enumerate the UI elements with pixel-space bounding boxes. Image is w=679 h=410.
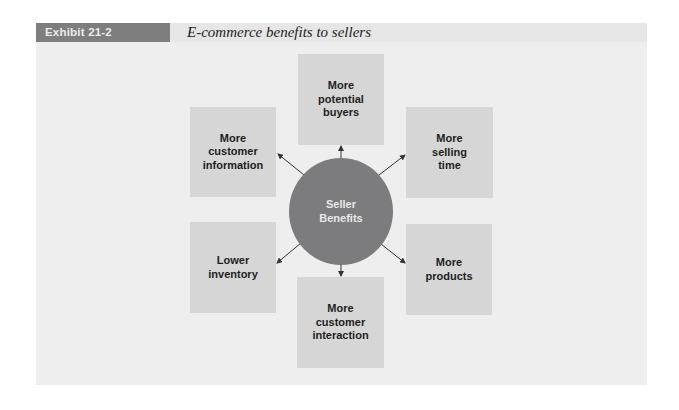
- benefit-box-customer-information: More customer information: [190, 107, 276, 197]
- benefit-box-customer-interaction: More customer interaction: [297, 277, 384, 368]
- benefit-box-lower-inventory: Lower inventory: [190, 222, 276, 313]
- benefit-box-selling-time: More selling time: [406, 107, 493, 198]
- benefit-label: More potential buyers: [318, 79, 364, 120]
- benefit-box-potential-buyers: More potential buyers: [298, 54, 384, 145]
- benefit-box-more-products: More products: [406, 224, 492, 315]
- seller-benefits-hub: Seller Benefits: [289, 158, 393, 265]
- benefit-label: More products: [425, 256, 472, 283]
- benefit-label: More selling time: [432, 132, 467, 173]
- benefit-label: More customer interaction: [312, 302, 368, 343]
- benefit-label: Lower inventory: [208, 254, 258, 281]
- benefit-label: More customer information: [203, 132, 264, 173]
- exhibit-title: E-commerce benefits to sellers: [187, 23, 371, 42]
- exhibit-label: Exhibit 21-2: [36, 23, 170, 42]
- hub-label: Seller Benefits: [319, 198, 362, 225]
